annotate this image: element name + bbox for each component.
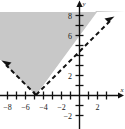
- absolute-value-inequality-graph: −8 −6 −4 −2 2 8 6 2 −2 x y: [0, 0, 125, 129]
- y-axis-label: y: [81, 0, 86, 8]
- x-tick-label-neg6: −6: [21, 103, 30, 112]
- x-tick-label-neg4: −4: [39, 103, 48, 112]
- y-tick-label-2: 2: [68, 72, 72, 81]
- y-tick-label-6: 6: [68, 32, 72, 41]
- solution-region-shading-fill: [0, 12, 125, 95]
- x-tick-label-2: 2: [96, 103, 100, 112]
- y-tick-label-neg2: −2: [63, 112, 72, 121]
- x-tick-label-neg8: −8: [3, 103, 12, 112]
- x-axis-label: x: [119, 86, 124, 94]
- graph-canvas: −8 −6 −4 −2 2 8 6 2 −2 x y: [0, 0, 125, 129]
- y-tick-label-8: 8: [68, 12, 72, 21]
